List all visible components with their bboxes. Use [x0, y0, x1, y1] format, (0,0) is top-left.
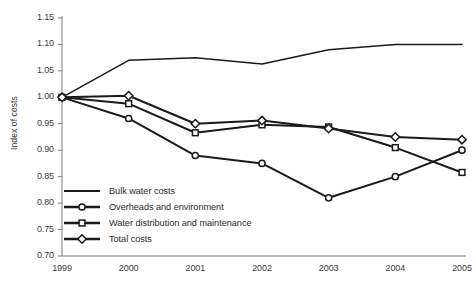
chart-legend: Bulk water costsOverheads and environmen… [62, 183, 252, 247]
data-point-circle [259, 160, 265, 166]
legend-label: Water distribution and maintenance [109, 218, 252, 228]
data-point-square [392, 145, 398, 151]
line-chart: Index of costs 1.151.101.051.000.950.900… [0, 0, 476, 287]
data-point-square [192, 130, 198, 136]
data-point-circle [192, 152, 198, 158]
data-point-circle [126, 115, 132, 121]
legend-swatch [62, 232, 102, 246]
data-point-diamond [191, 120, 199, 128]
legend-label: Bulk water costs [109, 186, 175, 196]
data-point-diamond [458, 135, 466, 143]
data-point-diamond [391, 133, 399, 141]
legend-item: Overheads and environment [62, 199, 252, 215]
data-point-circle [392, 174, 398, 180]
data-point-circle [459, 147, 465, 153]
legend-label: Overheads and environment [109, 202, 224, 212]
legend-swatch [62, 200, 102, 214]
legend-swatch [62, 184, 102, 198]
data-point-diamond [78, 235, 86, 243]
series-line [62, 44, 462, 97]
data-point-diamond [124, 92, 132, 100]
legend-label: Total costs [109, 234, 152, 244]
data-point-square [126, 101, 132, 107]
data-point-circle [326, 195, 332, 201]
legend-item: Total costs [62, 231, 252, 247]
data-point-square [459, 170, 465, 176]
legend-item: Bulk water costs [62, 183, 252, 199]
legend-swatch [62, 216, 102, 230]
data-point-square [79, 220, 85, 226]
data-point-circle [79, 204, 85, 210]
legend-item: Water distribution and maintenance [62, 215, 252, 231]
